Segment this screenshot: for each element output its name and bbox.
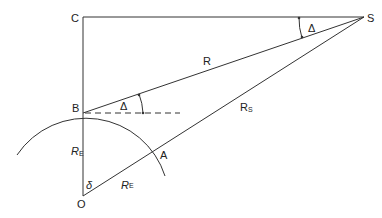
angle-arc-b (139, 94, 143, 113)
angle-s-tick-top (298, 17, 301, 20)
label-delta-s: Δ (308, 22, 316, 34)
label-r: R (203, 55, 211, 67)
label-rs-sub: S (248, 106, 253, 113)
label-re-slant-main: R (121, 179, 129, 191)
angle-arc-s (299, 17, 302, 38)
label-re-vertical: RE (71, 145, 84, 157)
line-b-s (83, 17, 364, 113)
label-rs: RS (240, 101, 253, 113)
label-re-slant: RE (121, 179, 134, 191)
label-c: C (71, 12, 79, 24)
label-delta-b: Δ (120, 100, 128, 112)
label-s: S (367, 12, 374, 24)
label-o: O (77, 198, 86, 210)
angle-s-tick-bottom (301, 36, 304, 39)
label-re-slant-sub: E (129, 182, 134, 189)
angle-b-tick-top (138, 94, 141, 97)
label-delta-lower: δ (86, 179, 93, 191)
label-a: A (160, 149, 168, 161)
label-rs-main: R (240, 101, 248, 113)
geometry-diagram: C S B O A R RS RE RE Δ Δ δ (0, 0, 382, 218)
label-b: B (72, 102, 79, 114)
angle-b-tick-bottom (142, 112, 145, 115)
label-re-vertical-main: R (71, 145, 79, 157)
label-re-vertical-sub: E (79, 150, 84, 157)
earth-arc (17, 118, 165, 176)
